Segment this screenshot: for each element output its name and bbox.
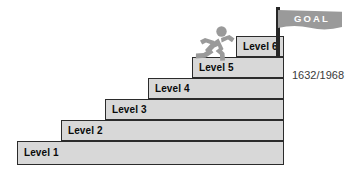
goal-flag: GOAL	[272, 6, 344, 58]
staircase-step-level-4[interactable]: Level 4	[148, 78, 284, 99]
progress-counter: 1632/1968	[292, 70, 344, 81]
staircase-step-level-1[interactable]: Level 1	[17, 141, 284, 165]
step-label-level-5: Level 5	[193, 63, 234, 73]
staircase-step-level-3[interactable]: Level 3	[105, 99, 284, 120]
progress-staircase-diagram: Level 1 Level 2 Level 3 Level 4 Level 5 …	[0, 0, 358, 172]
step-label-level-4: Level 4	[149, 84, 190, 94]
staircase-step-level-2[interactable]: Level 2	[61, 120, 284, 141]
step-label-level-3: Level 3	[106, 105, 147, 115]
step-label-level-1: Level 1	[18, 148, 59, 158]
step-label-level-2: Level 2	[62, 126, 103, 136]
goal-label: GOAL	[284, 14, 340, 24]
running-person-icon	[193, 26, 237, 64]
